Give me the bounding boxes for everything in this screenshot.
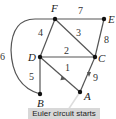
edge-label-7: 7 <box>78 5 83 16</box>
node-D <box>38 55 42 59</box>
edge-label-6: 6 <box>0 51 5 62</box>
edge-label-1: 1 <box>65 62 70 73</box>
edge-D-A <box>40 57 80 92</box>
node-label-F: F <box>50 2 58 14</box>
node-label-E: E <box>107 13 115 25</box>
graph-diagram: F E D C B A 1 2 3 4 5 6 7 8 9 <box>0 0 116 119</box>
node-label-D: D <box>27 51 36 63</box>
edge-label-5: 5 <box>29 71 34 82</box>
node-label-A: A <box>83 90 91 102</box>
node-A <box>78 90 82 94</box>
edge-label-4: 4 <box>38 27 43 38</box>
node-B <box>38 92 42 96</box>
node-F <box>53 17 57 21</box>
edges <box>11 19 104 94</box>
node-label-C: C <box>98 52 106 64</box>
edge-F-D <box>40 19 55 57</box>
edge-label-9: 9 <box>93 72 98 83</box>
edge-label-2: 2 <box>64 45 69 56</box>
edge-label-3: 3 <box>76 27 81 38</box>
edge-label-8: 8 <box>104 34 109 45</box>
node-E <box>102 17 106 21</box>
node-C <box>93 55 97 59</box>
edge-F-C <box>55 19 95 57</box>
callout-label: Euler circuit starts <box>28 108 100 119</box>
